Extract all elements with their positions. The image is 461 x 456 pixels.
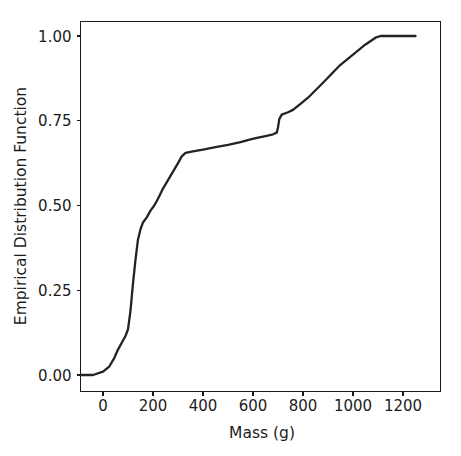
x-tick-label: 400 xyxy=(189,397,218,415)
y-tick-label: 0.00 xyxy=(38,367,71,385)
y-tick-label: 0.25 xyxy=(38,282,71,300)
x-tick-label: 1200 xyxy=(384,397,422,415)
ecdf-curve-line xyxy=(81,36,416,375)
axis-frame xyxy=(81,22,441,392)
x-tick-label: 600 xyxy=(239,397,268,415)
ecdf-plot: 0.000.250.500.751.00 0200400600800100012… xyxy=(0,0,461,456)
x-tick-label: 800 xyxy=(289,397,318,415)
chart-figure: 0.000.250.500.751.00 0200400600800100012… xyxy=(0,0,461,456)
x-tick-label: 200 xyxy=(139,397,168,415)
y-axis-ticks: 0.000.250.500.751.00 xyxy=(38,28,80,385)
x-axis-ticks: 020040060080010001200 xyxy=(98,392,422,415)
x-tick-label: 0 xyxy=(98,397,108,415)
y-tick-label: 0.50 xyxy=(38,197,71,215)
x-axis-title: Mass (g) xyxy=(229,424,295,442)
y-tick-label: 0.75 xyxy=(38,112,71,130)
y-axis-title: Empirical Distribution Function xyxy=(12,87,30,325)
x-tick-label: 1000 xyxy=(334,397,372,415)
y-tick-label: 1.00 xyxy=(38,28,71,46)
